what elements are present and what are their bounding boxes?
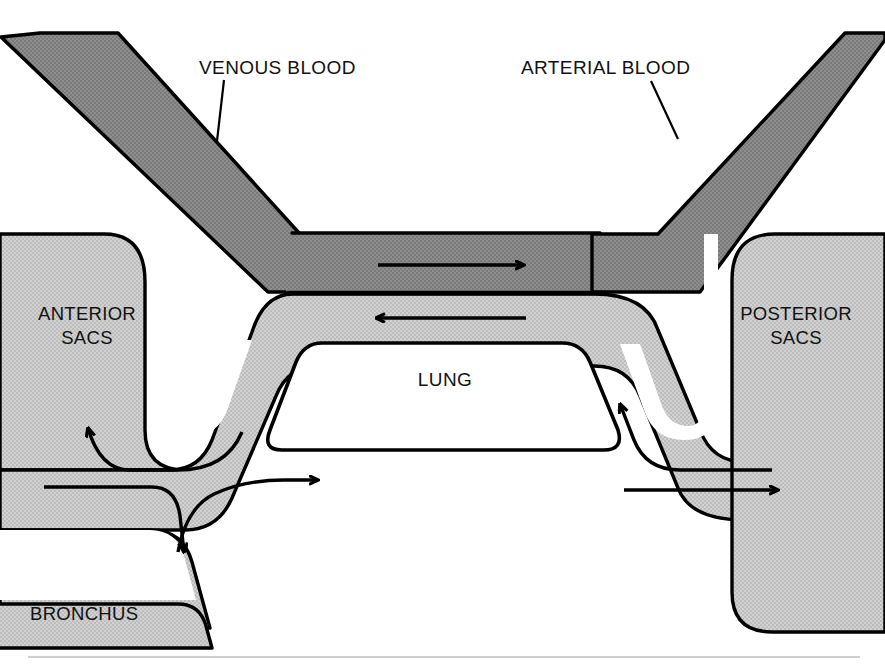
bronchus-label: BRONCHUS bbox=[30, 603, 138, 624]
pulmonary-capillary-band bbox=[286, 234, 604, 292]
arterial-blood-leader bbox=[651, 81, 678, 139]
respiratory-flow-diagram: VENOUS BLOOD ARTERIAL BLOOD ANTERIOR SAC… bbox=[0, 0, 885, 666]
lung-label: LUNG bbox=[418, 369, 472, 390]
anterior-sacs-label-line2: SACS bbox=[61, 327, 113, 348]
posterior-sacs-label-line1: POSTERIOR bbox=[740, 303, 852, 324]
anterior-sacs-label-line1: ANTERIOR bbox=[38, 303, 136, 324]
bronchus-notch bbox=[0, 530, 196, 600]
diagram-canvas: VENOUS BLOOD ARTERIAL BLOOD ANTERIOR SAC… bbox=[0, 0, 885, 666]
posterior-sacs-label-line2: SACS bbox=[770, 327, 822, 348]
lung-shape bbox=[268, 343, 620, 450]
posterior-sacs-shape bbox=[732, 234, 885, 632]
venous-blood-label: VENOUS BLOOD bbox=[199, 57, 356, 78]
leader-lines bbox=[217, 80, 678, 141]
venous-blood-leader bbox=[217, 80, 224, 141]
arterial-blood-label: ARTERIAL BLOOD bbox=[521, 57, 690, 78]
